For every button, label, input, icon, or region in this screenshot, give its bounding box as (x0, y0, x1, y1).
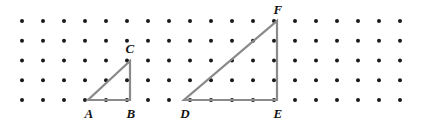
grid-dot (104, 59, 108, 63)
grid-dot (209, 59, 213, 63)
label-b: B (127, 107, 136, 120)
grid-dot (335, 59, 339, 63)
grid-dot (377, 59, 381, 63)
grid-dot (62, 98, 66, 102)
grid-dot (146, 98, 150, 102)
grid-dot (125, 78, 129, 82)
grid-dot (335, 39, 339, 43)
grid-dot (272, 78, 276, 82)
triangle-def (184, 21, 277, 100)
grid-dot (188, 78, 192, 82)
grid-dot (398, 19, 402, 23)
grid-dot (230, 19, 234, 23)
grid-dot (62, 78, 66, 82)
grid-dot (62, 39, 66, 43)
grid-dot (293, 39, 297, 43)
grid-dot (20, 59, 24, 63)
grid-dot (398, 98, 402, 102)
label-a: A (85, 107, 94, 120)
label-e: E (274, 107, 283, 120)
grid-dot (83, 19, 87, 23)
grid-dot (230, 39, 234, 43)
grid-dot (377, 19, 381, 23)
grid-dot (314, 59, 318, 63)
grid-dot (230, 78, 234, 82)
grid-dot (20, 78, 24, 82)
grid-dot (167, 19, 171, 23)
grid-dot (356, 39, 360, 43)
label-d: D (180, 107, 190, 120)
grid-dot (62, 19, 66, 23)
grid-dot (377, 39, 381, 43)
grid-dot (83, 78, 87, 82)
grid-dot (209, 39, 213, 43)
grid-dot (356, 59, 360, 63)
grid-dot (62, 59, 66, 63)
grid-dot (398, 39, 402, 43)
dot-grid (20, 19, 402, 102)
grid-dot (125, 19, 129, 23)
label-c: C (126, 42, 135, 55)
grid-dot (377, 78, 381, 82)
grid-dot (146, 39, 150, 43)
grid-dot (167, 98, 171, 102)
grid-dot (251, 59, 255, 63)
grid-dot (41, 98, 45, 102)
grid-dot (20, 98, 24, 102)
grid-dot (293, 78, 297, 82)
grid-dot (83, 39, 87, 43)
grid-dot (167, 59, 171, 63)
label-f: F (274, 3, 283, 16)
grid-dot (209, 19, 213, 23)
grid-dot (272, 39, 276, 43)
grid-dot (335, 78, 339, 82)
grid-dot (314, 39, 318, 43)
grid-dot (20, 19, 24, 23)
grid-dot (293, 98, 297, 102)
grid-dot (146, 19, 150, 23)
grid-dot (167, 78, 171, 82)
grid-dot (83, 59, 87, 63)
grid-dot (272, 59, 276, 63)
grid-dot (314, 78, 318, 82)
grid-dot (335, 19, 339, 23)
grid-dot (146, 59, 150, 63)
grid-dot (20, 39, 24, 43)
grid-dot (41, 78, 45, 82)
grid-dot (314, 19, 318, 23)
triangle-abc (88, 61, 130, 100)
grid-dot (41, 39, 45, 43)
grid-dot (41, 59, 45, 63)
grid-dot (377, 98, 381, 102)
grid-dot (146, 78, 150, 82)
grid-dot (398, 78, 402, 82)
grid-dot (188, 19, 192, 23)
grid-dot (188, 59, 192, 63)
geometry-figure: ABCDEF (0, 0, 427, 124)
triangle-layer (88, 21, 277, 100)
grid-dot (104, 39, 108, 43)
figure-canvas (0, 0, 427, 124)
grid-dot (293, 19, 297, 23)
grid-dot (188, 39, 192, 43)
grid-dot (356, 19, 360, 23)
grid-dot (167, 39, 171, 43)
grid-dot (251, 78, 255, 82)
grid-dot (398, 59, 402, 63)
grid-dot (356, 78, 360, 82)
grid-dot (314, 98, 318, 102)
grid-dot (356, 98, 360, 102)
grid-dot (41, 19, 45, 23)
grid-dot (293, 59, 297, 63)
grid-dot (335, 98, 339, 102)
grid-dot (251, 19, 255, 23)
grid-dot (104, 19, 108, 23)
